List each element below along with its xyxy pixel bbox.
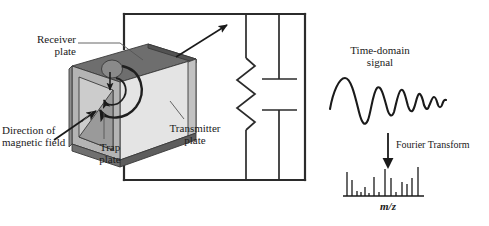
label-receiver-plate: Receiver plate (6, 33, 76, 58)
label-transmitter-plate: Transmitter plate (158, 122, 232, 147)
label-direction-of-magnetic-field: Direction of magnetic field (2, 124, 94, 149)
excitation-arrow (176, 25, 227, 57)
mass-spectrum-peaks (347, 167, 418, 196)
time-domain-waveform (330, 78, 446, 124)
capacitor (262, 14, 297, 180)
label-trap-plate: Trap plate (88, 141, 132, 166)
label-time-domain-signal: Time-domain signal (328, 44, 432, 69)
resistor (237, 14, 255, 180)
label-fourier-transform: Fourier Transform (396, 139, 488, 150)
mass-spectrum (343, 167, 424, 196)
label-mz-axis: m/z (360, 200, 416, 212)
ion-cloud (102, 60, 123, 78)
figure-canvas: Receiver plate Direction of magnetic fie… (0, 0, 489, 226)
